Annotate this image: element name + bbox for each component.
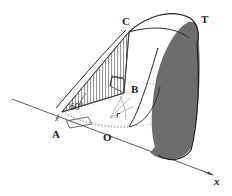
label-x-tick-near-a: x [55,115,59,123]
radius-lines-from-o [110,93,134,120]
label-angle-60: 60° [70,103,83,113]
label-radius-r: r [116,110,120,120]
label-point-c: C [122,16,130,27]
label-axis-x: x [214,176,220,187]
shaded-crescent-region [150,22,200,159]
figure-canvas [0,0,232,196]
label-point-a: A [52,129,60,140]
hatched-triangle-abc [62,32,129,112]
right-angle-marker-ground-icon [66,117,92,128]
label-point-t: T [201,14,208,25]
label-point-o: O [103,132,112,143]
label-point-b: B [131,84,138,95]
arrow-right-icon [205,171,214,175]
geometry-figure: A B C O T 60° r x x [0,0,232,196]
